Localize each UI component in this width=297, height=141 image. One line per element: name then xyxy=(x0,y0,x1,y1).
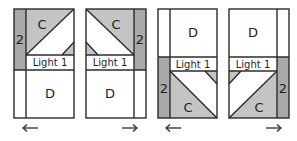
triangle-label: C xyxy=(37,17,46,32)
square-label: D xyxy=(188,25,198,40)
square-label: D xyxy=(248,25,258,40)
arrow-right-icon xyxy=(122,125,137,132)
panel-1: 2 C Light 1 D xyxy=(14,9,74,132)
band-label: Light 1 xyxy=(93,57,128,68)
square-label: D xyxy=(105,86,115,101)
triangle-label: C xyxy=(111,17,120,32)
triangle-label: C xyxy=(254,100,263,115)
arrow-left-icon xyxy=(166,125,181,132)
band-label: Light 1 xyxy=(33,57,68,68)
band-label: Light 1 xyxy=(236,59,271,70)
band-label: Light 1 xyxy=(176,59,211,70)
arrow-left-icon xyxy=(23,125,38,132)
strip-label: 2 xyxy=(16,32,24,47)
panel-2: 2 C Light 1 D xyxy=(86,9,146,132)
quilt-block-diagram: 2 C Light 1 D 2 C Light 1 D xyxy=(0,0,297,141)
square-label: D xyxy=(45,86,55,101)
strip-label: 2 xyxy=(279,81,287,96)
strip-label: 2 xyxy=(160,81,168,96)
strip-label: 2 xyxy=(136,32,144,47)
panel-4: 2 C Light 1 D xyxy=(229,9,289,132)
arrow-right-icon xyxy=(266,125,281,132)
panel-3: 2 C Light 1 D xyxy=(158,9,217,132)
triangle-label: C xyxy=(183,100,192,115)
